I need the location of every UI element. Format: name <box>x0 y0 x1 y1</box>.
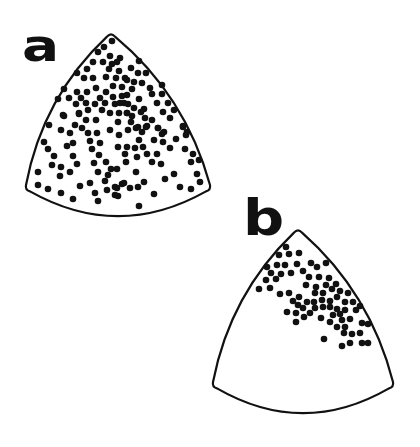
data-point <box>316 274 323 281</box>
data-point <box>160 109 167 116</box>
data-point <box>296 294 303 301</box>
data-point <box>72 122 79 129</box>
data-point <box>87 180 94 187</box>
data-point <box>306 274 313 281</box>
data-point <box>182 146 189 153</box>
data-point <box>162 176 169 183</box>
data-point <box>124 144 131 151</box>
data-point <box>149 159 156 166</box>
data-point <box>129 86 136 93</box>
data-point <box>194 171 201 178</box>
data-point <box>190 151 197 158</box>
data-point <box>105 172 112 179</box>
data-point <box>267 285 274 292</box>
data-point <box>78 95 85 102</box>
data-point <box>104 187 111 194</box>
data-point <box>167 145 174 152</box>
data-point <box>96 152 103 159</box>
data-point <box>79 125 86 132</box>
data-point <box>268 270 275 277</box>
data-point <box>296 250 303 257</box>
data-point <box>114 166 121 173</box>
data-point <box>300 305 307 312</box>
data-point <box>365 340 372 347</box>
data-point <box>57 173 64 180</box>
data-point <box>107 127 114 134</box>
data-point <box>300 268 307 275</box>
data-point <box>347 316 354 323</box>
data-point <box>95 49 102 56</box>
data-point <box>106 66 113 73</box>
data-point <box>365 321 372 328</box>
data-point <box>92 101 99 108</box>
data-point <box>320 304 327 311</box>
data-point <box>293 310 300 317</box>
data-point <box>139 129 146 136</box>
data-point <box>294 261 301 268</box>
data-point <box>136 203 143 210</box>
scatter-figure-svg <box>0 0 420 447</box>
data-point <box>90 75 97 82</box>
data-point <box>66 95 73 102</box>
data-point <box>116 68 123 75</box>
data-point <box>76 111 83 118</box>
data-point <box>314 264 321 271</box>
data-point <box>45 146 52 153</box>
data-point <box>159 91 166 98</box>
data-point <box>167 115 174 122</box>
data-point <box>274 262 281 269</box>
data-point <box>46 122 53 129</box>
data-point <box>138 109 145 116</box>
data-point <box>99 107 106 114</box>
data-point <box>159 82 166 89</box>
data-point <box>282 262 289 269</box>
data-point <box>357 330 364 337</box>
data-point <box>341 330 348 337</box>
data-point <box>188 186 195 193</box>
data-point <box>147 85 154 92</box>
data-point <box>93 85 100 92</box>
data-point <box>313 284 320 291</box>
data-point <box>70 196 77 203</box>
data-point <box>87 138 94 145</box>
data-point <box>128 119 135 126</box>
data-point <box>308 260 315 267</box>
data-point <box>136 96 143 103</box>
data-point <box>107 110 114 117</box>
data-point <box>320 290 327 297</box>
data-point <box>149 91 156 98</box>
data-point <box>110 83 117 90</box>
data-point <box>122 151 129 158</box>
data-point <box>327 304 334 311</box>
data-point <box>135 70 142 77</box>
data-point <box>101 44 108 51</box>
data-point <box>121 180 128 187</box>
data-point <box>141 179 148 186</box>
data-point <box>256 286 263 293</box>
data-point <box>337 288 344 295</box>
data-point <box>359 340 366 347</box>
data-point <box>149 117 156 124</box>
data-point <box>264 264 271 271</box>
data-point <box>312 305 319 312</box>
data-point <box>334 294 341 301</box>
data-point <box>113 75 120 82</box>
data-point <box>58 190 65 197</box>
data-point <box>160 139 167 146</box>
data-point <box>124 92 131 99</box>
data-point <box>276 252 283 259</box>
data-point <box>303 282 310 289</box>
data-point <box>95 169 102 176</box>
data-point <box>133 169 140 176</box>
data-point <box>134 154 141 161</box>
data-point <box>327 319 334 326</box>
data-point <box>125 101 132 108</box>
data-point <box>323 282 330 289</box>
data-point <box>51 153 58 160</box>
data-point <box>94 130 101 137</box>
data-point <box>151 191 158 198</box>
data-point <box>73 101 80 108</box>
data-point <box>49 162 56 169</box>
data-point <box>345 290 352 297</box>
panel-label-a: a <box>22 24 58 68</box>
